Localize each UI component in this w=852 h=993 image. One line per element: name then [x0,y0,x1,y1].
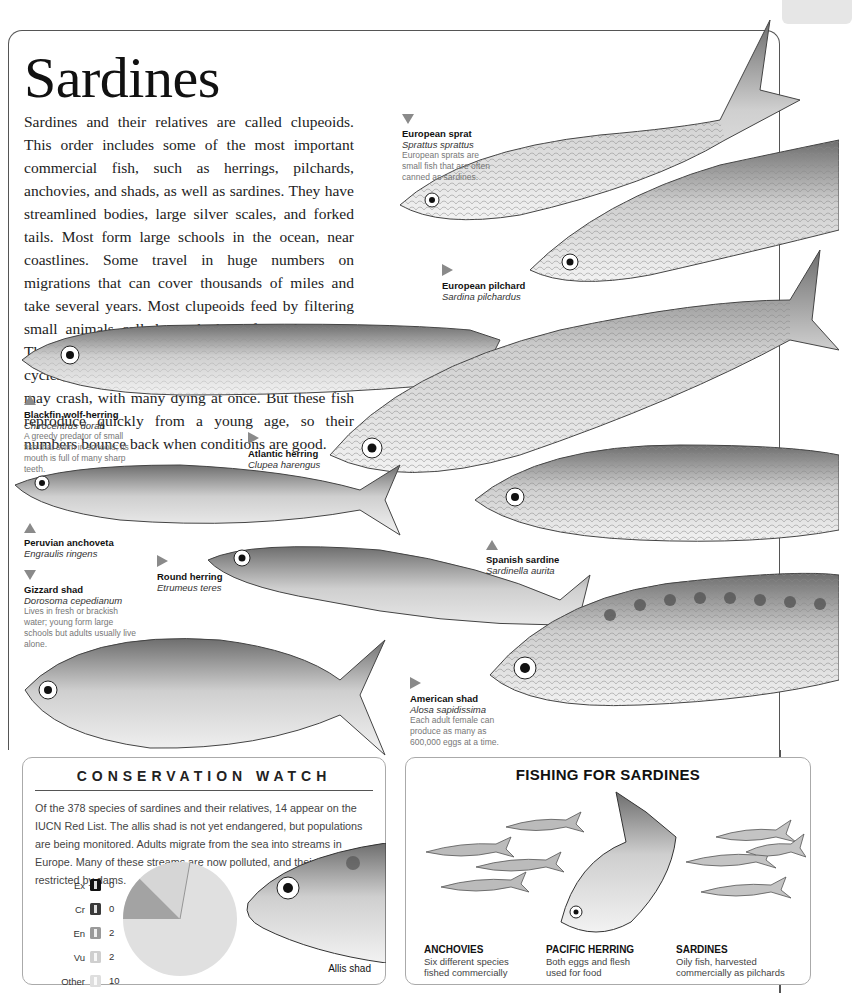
pointer-right-icon [157,555,168,567]
fishing-for-sardines-panel: FISHING FOR SARDINES ANCHOVIES Six diffe… [405,757,811,985]
allis-shad-caption: Allis shad [328,963,371,974]
fish-spanish-sardine [475,445,839,541]
pointer-right-icon [410,677,421,689]
endangered-icon [90,927,101,939]
species-label-european-sprat: European sprat Sprattus sprattus Europea… [402,114,492,183]
fishing-col-sardines: SARDINES Oily fish, harvested commercial… [676,944,786,979]
species-label-european-pilchard: European pilchard Sardina pilchardus [442,264,552,302]
status-legend: Ex Cr En Vu Other [37,873,107,993]
pointer-right-icon [442,264,453,276]
species-label-blackfin-wolf-herring: Blackfin wolf-herring Chirocentrus dorab… [24,395,136,475]
species-label-peruvian-anchoveta: Peruvian anchoveta Engraulis ringens [24,523,134,559]
species-label-atlantic-herring: Atlantic herring Clupea harengus [248,432,348,470]
pointer-down-icon [402,114,414,124]
species-label-gizzard-shad: Gizzard shad Dorosoma cepedianum Lives i… [24,570,142,650]
legend-row-cr: Cr [37,897,107,921]
pointer-up-icon [24,523,36,533]
pointer-up-icon [486,540,498,550]
status-legend-values: 0 0 2 2 10 [109,873,120,993]
fish-gizzard-shad [25,639,385,755]
conservation-title: CONSERVATION WATCH [23,768,385,784]
extinct-icon [90,879,101,891]
fishing-illustration [416,782,806,942]
legend-row-ex: Ex [37,873,107,897]
pointer-right-icon [248,432,259,444]
vulnerable-icon [90,951,101,963]
allis-shad-illustration [243,843,386,963]
legend-row-vu: Vu [37,945,107,969]
divider [35,790,373,791]
critically-endangered-icon [90,903,101,915]
status-pie-chart [119,858,241,980]
species-label-round-herring: Round herring Etrumeus teres [157,555,247,593]
species-label-american-shad: American shad Alosa sapidissima Each adu… [410,677,502,748]
other-status-icon [90,975,101,987]
fishing-col-anchovies: ANCHOVIES Six different species fished c… [424,944,520,979]
fishing-title: FISHING FOR SARDINES [406,766,810,783]
pointer-up-icon [24,395,36,405]
fishing-col-pacific-herring: PACIFIC HERRING Both eggs and flesh used… [546,944,636,979]
conservation-watch-panel: CONSERVATION WATCH Of the 378 species of… [22,757,386,985]
pointer-down-icon [24,570,36,580]
legend-row-other: Other [37,969,107,993]
species-label-spanish-sardine: Spanish sardine Sardinella aurita [486,540,586,576]
legend-row-en: En [37,921,107,945]
